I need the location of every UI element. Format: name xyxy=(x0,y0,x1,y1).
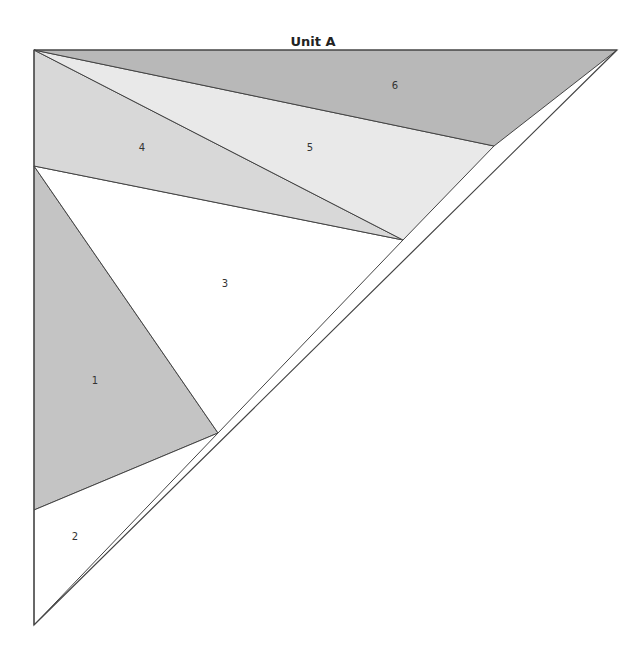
piece-label-2: 2 xyxy=(72,531,78,542)
piece-label-5: 5 xyxy=(307,142,313,153)
piece-label-6: 6 xyxy=(392,80,398,91)
piece-label-3: 3 xyxy=(222,278,228,289)
piece-label-4: 4 xyxy=(139,142,145,153)
quilt-block-diagram: 123456 xyxy=(0,0,626,657)
piece-label-1: 1 xyxy=(92,375,98,386)
